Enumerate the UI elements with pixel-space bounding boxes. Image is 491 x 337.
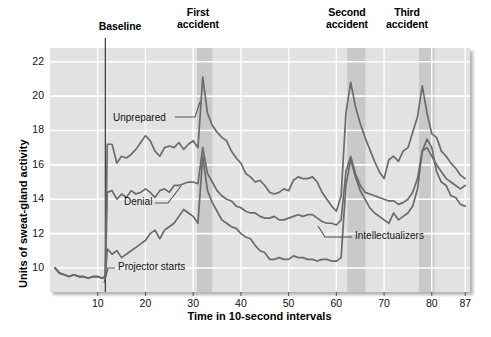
series-label-intellectualizers: Intellectualizers — [355, 230, 424, 241]
x-tick-label-60: 60 — [323, 297, 349, 309]
series-label-denial: Denial — [124, 196, 152, 207]
y-tick-label-10: 10 — [22, 261, 44, 273]
y-tick-label-14: 14 — [22, 192, 44, 204]
y-tick-label-18: 18 — [22, 123, 44, 135]
y-tick-label-16: 16 — [22, 158, 44, 170]
figure-sweat-gland-activity: Baseline First accident Second accident … — [0, 0, 491, 337]
x-tick-label-10: 10 — [85, 297, 111, 309]
plot-background — [50, 48, 470, 292]
x-tick-label-40: 40 — [228, 297, 254, 309]
x-tick-label-70: 70 — [371, 297, 397, 309]
x-tick-label-50: 50 — [276, 297, 302, 309]
series-label-projector-starts: Projector starts — [118, 261, 185, 272]
plot-canvas — [0, 0, 491, 337]
tick-marks — [98, 292, 466, 296]
x-tick-label-87: 87 — [452, 297, 478, 309]
y-tick-label-20: 20 — [22, 89, 44, 101]
x-tick-label-80: 80 — [419, 297, 445, 309]
x-tick-label-30: 30 — [180, 297, 206, 309]
series-label-unprepared: Unprepared — [113, 112, 166, 123]
y-tick-label-12: 12 — [22, 227, 44, 239]
y-tick-label-22: 22 — [22, 55, 44, 67]
x-tick-label-20: 20 — [132, 297, 158, 309]
